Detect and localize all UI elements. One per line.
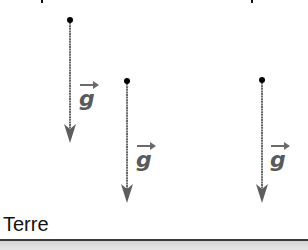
vector-label-g1: g <box>79 88 95 110</box>
application-point <box>259 77 265 83</box>
gravity-field-diagram: g g g Terre <box>0 0 308 250</box>
ground-label: Terre <box>3 213 49 236</box>
gravity-vector-3 <box>256 77 268 203</box>
application-point <box>67 17 73 23</box>
vector-label-g3: g <box>270 149 286 171</box>
gravity-vector-2 <box>121 78 133 203</box>
vector-label-g2: g <box>136 149 152 171</box>
ground-surface <box>0 241 308 250</box>
application-point <box>124 78 130 84</box>
gravity-vector-1 <box>64 17 76 143</box>
